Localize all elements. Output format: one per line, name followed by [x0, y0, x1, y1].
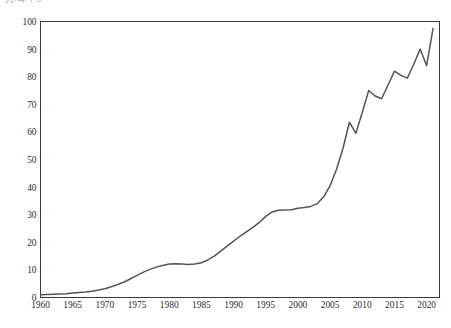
y-tick-label: 80 — [27, 72, 37, 82]
data-series-line — [41, 28, 434, 294]
line-chart-figure: 0102030405060708090100 19601965197019751… — [0, 0, 451, 328]
y-tick-label: 50 — [27, 155, 37, 165]
x-tick-label: 1985 — [192, 300, 211, 310]
x-tick-label: 2015 — [385, 300, 404, 310]
x-tick-label: 2000 — [289, 300, 308, 310]
plot-frame-border — [41, 22, 440, 298]
y-tick-label: 70 — [27, 100, 37, 110]
x-tick-label: 1995 — [256, 300, 275, 310]
x-tick-label: 2005 — [321, 300, 340, 310]
y-tick-label: 10 — [27, 265, 37, 275]
y-tick-label: 60 — [27, 127, 37, 137]
y-axis-tick-labels: 0102030405060708090100 — [22, 17, 36, 303]
x-tick-label: 2020 — [417, 300, 436, 310]
x-tick-label: 1990 — [224, 300, 243, 310]
x-tick-label: 1960 — [31, 300, 50, 310]
y-tick-label: 30 — [27, 210, 37, 220]
x-axis-tick-labels: 1960196519701975198019851990199520002005… — [31, 300, 436, 310]
y-tick-label: 20 — [27, 238, 37, 248]
y-tick-label: 40 — [27, 183, 37, 193]
y-tick-label: 90 — [27, 45, 37, 55]
x-tick-label: 1970 — [95, 300, 114, 310]
x-tick-label: 1975 — [128, 300, 147, 310]
plot-canvas: 0102030405060708090100 19601965197019751… — [0, 0, 451, 328]
x-tick-label: 1980 — [160, 300, 179, 310]
y-tick-label: 100 — [22, 17, 36, 27]
x-tick-label: 1965 — [63, 300, 82, 310]
x-tick-label: 2010 — [353, 300, 372, 310]
